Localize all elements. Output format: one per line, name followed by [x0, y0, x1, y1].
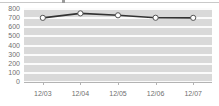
data-point-marker [115, 13, 120, 18]
data-point-marker [153, 15, 158, 20]
line-chart: 0100200300400500600700800 12/0312/0412/0… [0, 0, 219, 106]
data-point-marker [191, 15, 196, 20]
data-point-marker [78, 11, 83, 16]
series-layer [0, 0, 219, 106]
data-point-marker [40, 15, 45, 20]
